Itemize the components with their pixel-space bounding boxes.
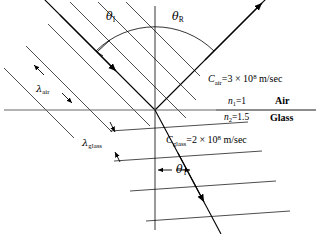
lambda-glass-measure: [110, 122, 120, 162]
transmitted-ray-arrow: [178, 153, 204, 202]
medium-glass-label: Glass: [270, 113, 293, 123]
refraction-diagram: θI θR θT λair λglass Cair=3 × 108 m/sec …: [0, 0, 320, 234]
lambda-glass-label: λglass: [82, 138, 102, 150]
medium-air-label: Air: [275, 96, 289, 106]
wavefronts-air: [4, 2, 200, 138]
n1-label: n1=1: [228, 97, 246, 108]
reflected-ray-arrow: [205, 3, 262, 60]
lambda-air-label: λair: [36, 84, 50, 96]
theta-incident-label: θI: [106, 11, 115, 24]
theta-reflected-label: θR: [172, 11, 184, 24]
n2-label: n2=1.5: [224, 113, 249, 124]
c-glass-label: Cglass=2 × 108 m/sec: [166, 135, 247, 147]
theta-transmitted-label: θT: [176, 164, 187, 177]
c-air-label: Cair=3 × 108 m/sec: [208, 74, 282, 86]
